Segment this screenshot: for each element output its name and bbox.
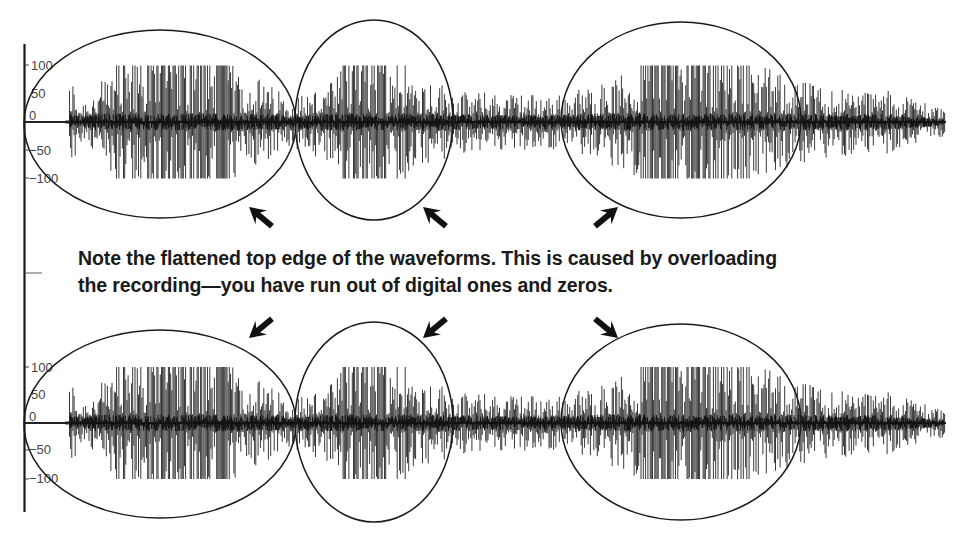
arrow-down-left-icon [417, 312, 452, 345]
arrow-up-left-icon [243, 200, 278, 233]
tick-label-50: 50 [31, 86, 45, 101]
annotation-caption: Note the flattened top edge of the wavef… [78, 245, 898, 299]
tick-label-0: 0 [29, 409, 36, 424]
tick-label-100: 100 [31, 58, 53, 73]
caption-line-1: Note the flattened top edge of the wavef… [78, 245, 898, 272]
tick-label-0: 0 [29, 108, 36, 123]
arrow-down-left-icon [243, 312, 278, 345]
waveform-bottom [25, 367, 946, 479]
arrow-down-right-icon [589, 312, 624, 345]
tick-label-100: 100 [31, 360, 53, 375]
arrow-up-left-icon [417, 200, 452, 233]
arrow-up-right-icon [589, 200, 624, 233]
waveform-top [25, 66, 946, 179]
caption-line-2: the recording—you have run out of digita… [78, 272, 898, 299]
